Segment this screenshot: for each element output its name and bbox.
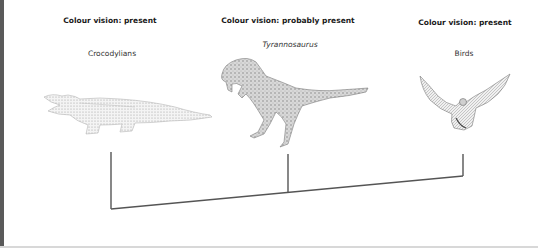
cladogram xyxy=(0,0,538,248)
trunk-line xyxy=(111,176,463,209)
